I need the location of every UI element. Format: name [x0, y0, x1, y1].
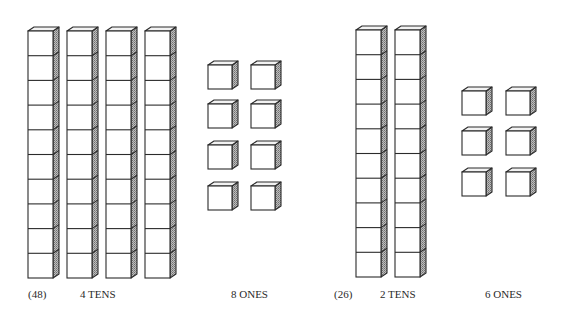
ones-label-8: 8 ONES	[231, 288, 268, 300]
unit-cube	[506, 87, 536, 115]
unit-cube	[506, 168, 536, 196]
ten-rod	[356, 26, 387, 277]
unit-cube	[208, 61, 238, 89]
ten-rod	[28, 27, 59, 278]
unit-cube	[208, 100, 238, 128]
number-label-48: (48)	[28, 288, 46, 300]
unit-cube	[251, 100, 281, 128]
ones-label-6: 6 ONES	[485, 288, 522, 300]
unit-cube	[462, 168, 492, 196]
group-26	[356, 26, 536, 277]
ten-rod	[395, 26, 426, 277]
group-48	[28, 27, 281, 278]
unit-cube	[208, 141, 238, 169]
tens-label-4: 4 TENS	[80, 288, 116, 300]
base-ten-blocks-diagram	[0, 0, 569, 316]
tens-label-2: 2 TENS	[380, 288, 416, 300]
ten-rod	[67, 27, 98, 278]
unit-cube	[251, 182, 281, 210]
unit-cube	[462, 127, 492, 155]
unit-cube	[251, 141, 281, 169]
unit-cube	[506, 127, 536, 155]
ten-rod	[145, 27, 176, 278]
unit-cube	[462, 87, 492, 115]
unit-cube	[208, 182, 238, 210]
unit-cube	[251, 61, 281, 89]
number-label-26: (26)	[334, 288, 352, 300]
ten-rod	[106, 27, 137, 278]
